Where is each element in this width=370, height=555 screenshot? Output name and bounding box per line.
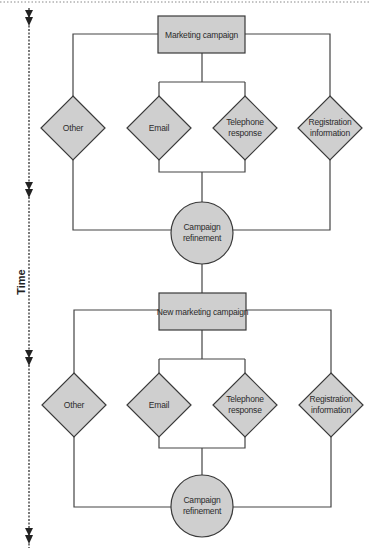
svg-text:Campaign: Campaign <box>183 495 221 505</box>
svg-text:Email: Email <box>149 400 170 410</box>
channel-registration-information: Registration information <box>298 96 362 160</box>
arrow-down-icon <box>25 350 33 366</box>
time-axis: Time <box>14 8 33 548</box>
channel-telephone-response: Telephone response <box>213 96 277 160</box>
svg-text:response: response <box>228 128 262 138</box>
svg-text:Telephone: Telephone <box>226 394 264 404</box>
campaign-refinement-node: Campaign refinement <box>171 202 233 264</box>
channel-registration-information: Registration information <box>299 373 363 437</box>
svg-text:Other: Other <box>63 123 84 133</box>
svg-text:Campaign: Campaign <box>183 222 221 232</box>
svg-text:information: information <box>310 128 350 138</box>
svg-text:Registration: Registration <box>309 117 352 127</box>
channel-email: Email <box>127 373 191 437</box>
arrow-down-icon <box>25 182 33 198</box>
new-campaign-box: New marketing campaign <box>157 293 249 330</box>
channel-other: Other <box>41 96 105 160</box>
cycle-1: Marketing campaign Other Email Telephone… <box>41 16 362 293</box>
arrow-down-icon <box>25 528 33 544</box>
svg-text:refinement: refinement <box>183 233 222 243</box>
svg-text:Marketing campaign: Marketing campaign <box>165 30 238 40</box>
svg-text:information: information <box>311 405 351 415</box>
svg-text:Registration: Registration <box>310 394 353 404</box>
campaign-refinement-node: Campaign refinement <box>171 475 233 537</box>
svg-text:Email: Email <box>149 123 170 133</box>
campaign-box: Marketing campaign <box>158 16 245 53</box>
svg-text:response: response <box>228 405 262 415</box>
svg-text:refinement: refinement <box>183 506 222 516</box>
channel-other: Other <box>42 373 106 437</box>
svg-text:New marketing campaign: New marketing campaign <box>157 307 249 317</box>
channel-email: Email <box>127 96 191 160</box>
arrow-down-icon <box>25 10 33 26</box>
svg-text:Other: Other <box>64 400 85 410</box>
time-axis-label: Time <box>15 269 27 294</box>
svg-text:Telephone: Telephone <box>226 117 264 127</box>
campaign-flow-diagram: Time Marketing campaign Other Email Tele… <box>0 0 370 555</box>
channel-telephone-response: Telephone response <box>213 373 277 437</box>
cycle-2: New marketing campaign Other Email Telep… <box>42 293 363 537</box>
